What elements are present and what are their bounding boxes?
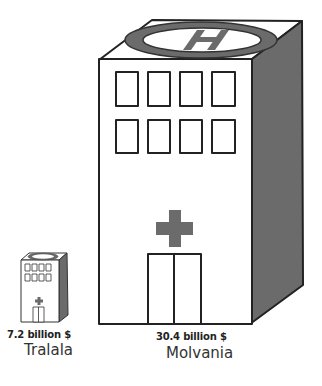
value-label-tralala: 7.2 billion $ xyxy=(7,329,71,340)
hospital-building-icon-tralala xyxy=(21,253,68,322)
value-label-molvania: 30.4 billion $ xyxy=(156,331,227,342)
hospital-building-icon-molvania xyxy=(99,20,303,324)
door xyxy=(148,254,201,324)
category-label-tralala: Tralala xyxy=(24,341,73,359)
helipad-icon xyxy=(125,22,277,58)
category-label-molvania: Molvania xyxy=(166,344,233,362)
